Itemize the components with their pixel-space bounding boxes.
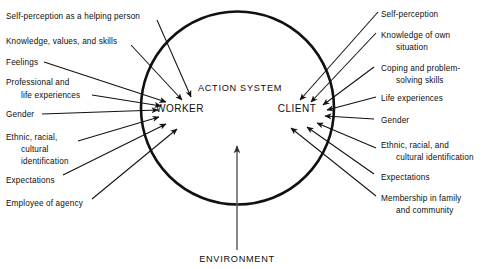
client-factor-4-line-1: Life experiences [381,94,443,103]
client-factor-2-line-2: situation [396,43,428,52]
client-factor-7-line-1: Expectations [381,173,430,182]
diagram-canvas: WORKER CLIENT ACTION SYSTEM ENVIRONMENT … [0,0,496,269]
worker-factor-3-line-1: Feelings [6,58,38,67]
client-factor-8-line-2: and community [396,206,454,215]
worker-factor-4-line-2: life experiences [21,91,80,100]
worker-factor-6-line-1: Ethnic, racial, [6,133,57,142]
client-factor-5-line-1: Gender [381,116,409,125]
client-leader-1 [300,12,378,100]
client-factor-6-line-1: Ethnic, racial, and [381,141,449,150]
client-factor-1-line-1: Self-perception [381,10,439,19]
worker-node-label: WORKER [156,103,204,114]
worker-factor-8-line-1: Employee of agency [6,199,84,208]
client-factor-3-line-2: solving skills [396,76,444,85]
client-factor-3-line-1: Coping and problem- [381,64,460,73]
worker-factor-labels: Self-perception as a helping person Know… [6,12,140,208]
worker-factor-6-line-2: cultural [21,145,49,154]
worker-factor-6-line-3: identification [21,157,69,166]
worker-leader-1 [157,20,191,97]
client-leader-8 [291,128,376,196]
client-factor-labels: Self-perception Knowledge of own situati… [381,10,474,215]
action-system-diagram: WORKER CLIENT ACTION SYSTEM ENVIRONMENT … [0,0,496,269]
client-factor-8-line-1: Membership in family [381,194,462,203]
worker-factor-2-line-1: Knowledge, values, and skills [6,37,117,46]
client-factor-6-line-2: cultural identification [396,153,474,162]
worker-factor-5-line-1: Gender [6,110,34,119]
client-leader-2 [311,33,376,102]
action-system-label: ACTION SYSTEM [198,83,282,93]
worker-factor-7-line-1: Expectations [6,176,55,185]
client-node-label: CLIENT [278,103,317,114]
worker-factor-4-line-1: Professional and [6,78,70,87]
client-factor-2-line-1: Knowledge of own [381,31,451,40]
environment-label: ENVIRONMENT [199,254,275,264]
worker-factor-1-line-1: Self-perception as a helping person [6,12,140,21]
